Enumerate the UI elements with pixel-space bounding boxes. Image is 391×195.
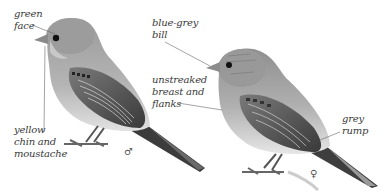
bird-illustration-figure: green face yellow chin and moustache ♂ b… [0, 0, 391, 195]
male-symbol: ♂ [124, 146, 133, 157]
female-symbol: ♀ [310, 168, 317, 179]
label-unstreaked-breast-and-flanks: unstreaked breast and flanks [152, 74, 207, 110]
label-grey-rump: grey rump [342, 113, 368, 137]
label-blue-grey-bill: blue-grey bill [152, 17, 198, 41]
label-green-face: green face [14, 8, 42, 32]
label-yellow-chin-and-moustache: yellow chin and moustache [14, 124, 67, 160]
